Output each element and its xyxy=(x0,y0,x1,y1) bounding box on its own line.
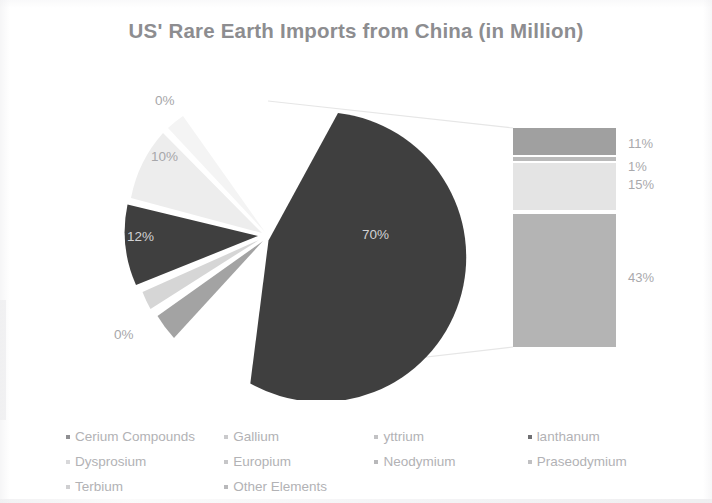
pie-data-label-70: 70% xyxy=(362,227,389,242)
legend-item-label: yttrium xyxy=(383,429,424,444)
pie-data-label-0-upper: 0% xyxy=(155,93,175,108)
bar-segment-15[interactable] xyxy=(513,163,616,210)
legend-item-praseodymium[interactable]: Praseodymium xyxy=(528,454,666,469)
legend-item-label: Gallium xyxy=(233,429,279,444)
chart-plot-area: 0% 10% 12% 0% 70% 11% 1% 15% 43% xyxy=(0,0,712,400)
bar-data-label-15: 15% xyxy=(628,177,654,192)
pie-data-label-0-lower: 0% xyxy=(114,327,134,342)
legend-swatch-icon xyxy=(374,460,378,464)
connector-line-top xyxy=(268,101,513,128)
legend-row: Dysprosium Europium Neodymium Praseodymi… xyxy=(66,449,666,474)
legend-item-cerium-compounds[interactable]: Cerium Compounds xyxy=(66,429,224,444)
bar-data-label-43: 43% xyxy=(628,270,654,285)
legend-item-europium[interactable]: Europium xyxy=(224,454,374,469)
pie-data-label-10: 10% xyxy=(151,149,178,164)
pie-data-label-12: 12% xyxy=(127,229,154,244)
bar-segment-1[interactable] xyxy=(513,157,616,161)
legend-item-yttrium[interactable]: yttrium xyxy=(374,429,527,444)
legend-swatch-icon xyxy=(528,435,532,439)
chart-legend: Cerium Compounds Gallium yttrium lanthan… xyxy=(66,424,666,499)
legend-item-label: Cerium Compounds xyxy=(75,429,195,444)
legend-item-label: Terbium xyxy=(75,479,123,494)
legend-swatch-icon xyxy=(224,460,228,464)
legend-item-label: Other Elements xyxy=(233,479,327,494)
legend-item-label: lanthanum xyxy=(537,429,600,444)
legend-row: Cerium Compounds Gallium yttrium lanthan… xyxy=(66,424,666,449)
legend-swatch-icon xyxy=(66,485,70,489)
legend-item-label: Neodymium xyxy=(383,454,455,469)
legend-item-label: Praseodymium xyxy=(537,454,627,469)
legend-item-lanthanum[interactable]: lanthanum xyxy=(528,429,666,444)
bar-segment-43[interactable] xyxy=(513,214,616,347)
scan-edge-bottom xyxy=(0,499,712,503)
legend-item-dysprosium[interactable]: Dysprosium xyxy=(66,454,224,469)
legend-item-label: Dysprosium xyxy=(75,454,146,469)
legend-swatch-icon xyxy=(528,460,532,464)
bar-segment-11[interactable] xyxy=(513,128,616,155)
legend-swatch-icon xyxy=(66,435,70,439)
bar-data-label-1: 1% xyxy=(628,159,647,174)
legend-item-label: Europium xyxy=(233,454,291,469)
legend-item-terbium[interactable]: Terbium xyxy=(66,479,224,494)
legend-swatch-icon xyxy=(224,485,228,489)
legend-row: Terbium Other Elements xyxy=(66,474,666,499)
stacked-bar xyxy=(513,128,616,347)
legend-swatch-icon xyxy=(66,460,70,464)
legend-item-gallium[interactable]: Gallium xyxy=(224,429,374,444)
pie-slice-70[interactable] xyxy=(250,113,466,400)
bar-data-label-11: 11% xyxy=(628,136,653,151)
pie-of-bar-graphic xyxy=(0,0,712,400)
legend-item-other-elements[interactable]: Other Elements xyxy=(224,479,374,494)
legend-swatch-icon xyxy=(374,435,378,439)
legend-swatch-icon xyxy=(224,435,228,439)
legend-item-neodymium[interactable]: Neodymium xyxy=(374,454,527,469)
